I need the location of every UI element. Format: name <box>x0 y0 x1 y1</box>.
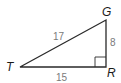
vertex-label-t: T <box>6 60 15 74</box>
side-label-gr: 8 <box>110 37 116 48</box>
side-label-tg: 17 <box>53 31 65 42</box>
right-angle-marker <box>95 57 106 67</box>
triangle-tgr <box>20 20 106 67</box>
triangle-diagram: T G R 17 8 15 <box>0 0 121 83</box>
side-label-tr: 15 <box>56 72 68 83</box>
vertex-label-g: G <box>102 5 111 19</box>
vertex-label-r: R <box>107 66 116 80</box>
